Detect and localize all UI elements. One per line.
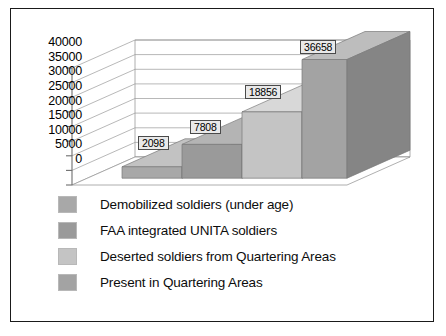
legend-item-deserted: Deserted soldiers from Quartering Areas	[58, 243, 398, 269]
legend-swatch-icon-demobilized	[58, 196, 77, 213]
y-tick-40000: 40000	[22, 37, 82, 48]
legend-swatch-icon-faa-integrated	[58, 222, 77, 239]
legend-swatch-icon-present-in-qa	[58, 274, 77, 291]
y-tick-10000: 10000	[22, 125, 82, 136]
chart-legend: Demobilized soldiers (under age) FAA int…	[58, 191, 398, 295]
y-tick-25000: 25000	[22, 81, 82, 92]
legend-item-present-in-qa: Present in Quartering Areas	[58, 269, 398, 295]
legend-label-deserted: Deserted soldiers from Quartering Areas	[100, 249, 336, 264]
y-axis-tick-labels: 40000 35000 30000 25000 20000 15000 1000…	[22, 44, 82, 176]
legend-swatch-icon-deserted	[58, 248, 77, 265]
y-tick-5000: 5000	[22, 139, 82, 150]
chart-screenshot: 40000 35000 30000 25000 20000 15000 1000…	[0, 0, 446, 336]
legend-label-demobilized: Demobilized soldiers (under age)	[100, 197, 293, 212]
data-label-bar-1: 2098	[138, 136, 169, 150]
y-tick-30000: 30000	[22, 66, 82, 77]
data-label-bar-4: 36658	[300, 40, 336, 54]
y-tick-35000: 35000	[22, 52, 82, 63]
data-label-bar-2: 7808	[190, 120, 221, 134]
legend-label-faa-integrated: FAA integrated UNITA soldiers	[100, 223, 277, 238]
data-label-bar-3: 18856	[245, 85, 281, 99]
legend-label-present-in-qa: Present in Quartering Areas	[100, 275, 263, 290]
y-tick-20000: 20000	[22, 96, 82, 107]
legend-item-faa-integrated: FAA integrated UNITA soldiers	[58, 217, 398, 243]
legend-item-demobilized: Demobilized soldiers (under age)	[58, 191, 398, 217]
y-tick-0: 0	[22, 154, 82, 165]
y-tick-15000: 15000	[22, 110, 82, 121]
